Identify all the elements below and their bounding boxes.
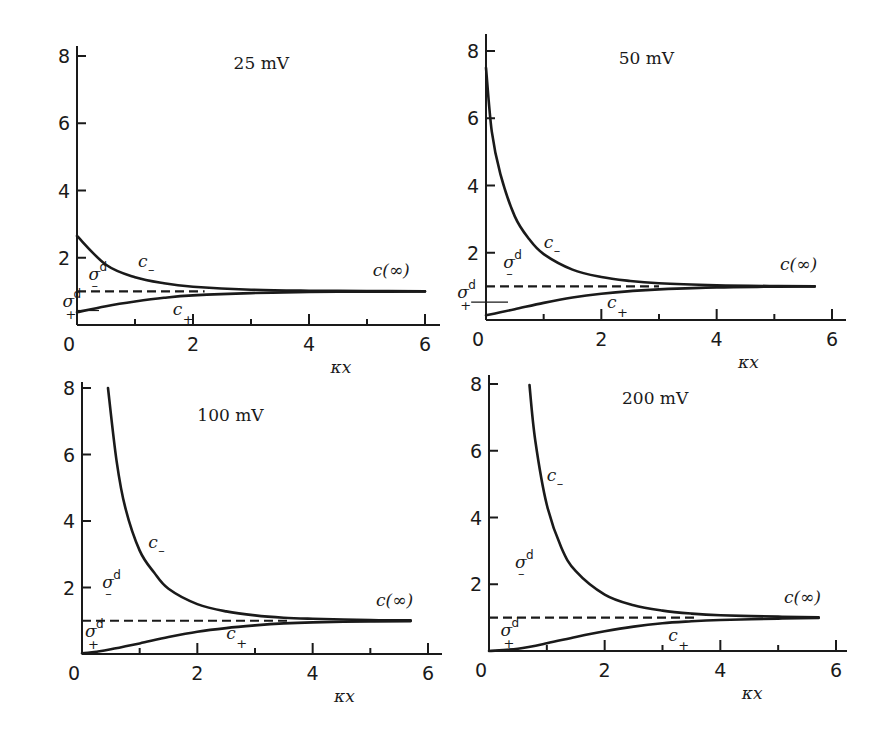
sigma-plus-superscript: d [74, 287, 82, 301]
y-tick-label: 8 [58, 45, 70, 67]
x-axis-label: κx [333, 686, 355, 706]
c-infinity-label: c(∞) [780, 254, 817, 274]
y-tick-label: 4 [63, 510, 75, 532]
y-tick-label: 8 [63, 377, 75, 399]
sigma-plus-superscript: d [96, 617, 104, 631]
c-minus-label: c [547, 465, 557, 485]
y-tick-label: 2 [63, 577, 75, 599]
y-tick-label: 6 [467, 107, 479, 129]
x-tick-label: 4 [711, 328, 723, 350]
c-plus-subscript: + [678, 638, 689, 653]
x-tick-label: 4 [303, 333, 315, 355]
y-tick-label: 6 [470, 440, 482, 462]
x-tick-label: 2 [191, 662, 203, 684]
x-tick-label: 4 [714, 659, 726, 681]
c-plus-label: c [173, 299, 183, 319]
panel-title: 25 mV [234, 53, 290, 73]
y-tick-label: 4 [58, 180, 70, 202]
c-plus-curve [489, 618, 819, 651]
panel-title: 100 mV [197, 405, 264, 425]
y-tick-label: 6 [58, 112, 70, 134]
c-infinity-label: c(∞) [373, 260, 410, 280]
x-tick-label: 2 [599, 659, 611, 681]
panel-50mv: 24680246κx50 mVc–c+c(∞)σd–σd+ [457, 34, 846, 372]
c-plus-curve [77, 291, 425, 312]
c-minus-curve [530, 385, 819, 617]
y-tick-label: 6 [63, 444, 75, 466]
sigma-plus-superscript: d [468, 278, 476, 292]
sigma-minus-subscript: – [506, 266, 513, 281]
c-plus-curve [486, 286, 815, 315]
panel-title: 50 mV [619, 48, 675, 68]
x-axis-label: κx [330, 357, 352, 377]
x-tick-label: 6 [826, 328, 838, 350]
sigma-plus-superscript: d [512, 616, 520, 630]
x-tick-label: 0 [472, 328, 484, 350]
c-plus-label: c [226, 623, 236, 643]
x-tick-label: 0 [63, 333, 75, 355]
c-minus-subscript: – [148, 262, 155, 277]
x-tick-label: 2 [595, 328, 607, 350]
sigma-minus-superscript: d [514, 248, 522, 262]
x-tick-label: 2 [187, 333, 199, 355]
y-tick-label: 8 [467, 40, 479, 62]
c-infinity-label: c(∞) [784, 587, 821, 607]
c-plus-label: c [668, 625, 678, 645]
panel-25mv: 24680246κx25 mVc–c+c(∞)σd–σd+ [58, 45, 440, 377]
x-tick-label: 0 [475, 659, 487, 681]
x-axis-label: κx [737, 352, 759, 372]
sigma-plus-subscript: + [460, 298, 471, 313]
sigma-plus-subscript: + [504, 636, 515, 651]
y-tick-label: 2 [467, 242, 479, 264]
sigma-plus-subscript: + [66, 307, 77, 322]
x-tick-label: 0 [68, 662, 80, 684]
x-tick-label: 6 [830, 659, 842, 681]
c-plus-subscript: + [617, 305, 628, 320]
x-tick-label: 4 [307, 662, 319, 684]
x-tick-label: 6 [419, 333, 431, 355]
y-tick-label: 4 [470, 507, 482, 529]
sigma-minus-subscript: – [92, 278, 99, 293]
y-tick-label: 2 [58, 247, 70, 269]
sigma-minus-subscript: – [105, 586, 112, 601]
sigma-minus-superscript: d [113, 568, 121, 582]
y-tick-label: 8 [470, 373, 482, 395]
y-tick-label: 2 [470, 573, 482, 595]
figure: 24680246κx25 mVc–c+c(∞)σd–σd+ 24680246κx… [0, 0, 877, 729]
c-minus-curve [486, 68, 815, 287]
sigma-minus-superscript: d [526, 548, 534, 562]
c-plus-label: c [607, 292, 617, 312]
c-minus-label: c [544, 232, 554, 252]
c-minus-subscript: – [557, 476, 564, 491]
c-minus-label: c [138, 251, 148, 271]
x-tick-label: 6 [422, 662, 434, 684]
panel-200mv: 24680246κx200 mVc–c+c(∞)σd–σd+ [470, 373, 847, 703]
sigma-minus-subscript: – [518, 566, 525, 581]
c-infinity-label: c(∞) [376, 590, 413, 610]
panel-title: 200 mV [622, 388, 689, 408]
c-plus-subscript: + [236, 636, 247, 651]
y-tick-label: 4 [467, 175, 479, 197]
c-minus-label: c [148, 532, 158, 552]
panel-100mv: 24680246κx100 mVc–c+c(∞)σd–σd+ [63, 377, 442, 706]
c-plus-subscript: + [183, 312, 194, 327]
c-minus-subscript: – [554, 243, 561, 258]
x-axis-label: κx [741, 683, 763, 703]
sigma-plus-subscript: + [88, 637, 99, 652]
c-minus-subscript: – [158, 543, 165, 558]
sigma-minus-superscript: d [100, 260, 108, 274]
